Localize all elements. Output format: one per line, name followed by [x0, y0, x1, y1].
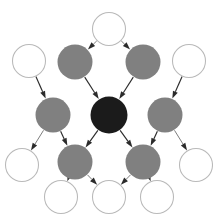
graph-node-gray[interactable] [58, 145, 93, 180]
graph-node-gray[interactable] [126, 45, 161, 80]
graph-diagram [0, 0, 213, 219]
graph-edge [36, 77, 46, 99]
graph-edge [172, 77, 182, 99]
arrowhead-icon [119, 91, 125, 99]
graph-edge [120, 130, 132, 147]
graph-node-gray[interactable] [126, 145, 161, 180]
arrowhead-icon [126, 140, 133, 148]
edge-line [85, 77, 95, 93]
arrowhead-icon [181, 143, 187, 151]
arrowhead-icon [86, 140, 93, 148]
edge-line [175, 77, 182, 92]
edge-line [88, 175, 92, 180]
graph-node-white[interactable] [6, 149, 39, 182]
edge-line [123, 77, 133, 93]
graph-node-white[interactable] [93, 13, 126, 46]
edge-line [120, 130, 128, 141]
edge-line [90, 130, 98, 141]
arrowhead-icon [62, 138, 68, 146]
graph-node-gray[interactable] [58, 45, 93, 80]
graph-node-white[interactable] [173, 45, 206, 78]
arrowhead-icon [31, 143, 37, 151]
graph-edge [88, 175, 98, 185]
graph-node-white[interactable] [180, 149, 213, 182]
edge-line [174, 130, 183, 144]
arrowhead-icon [40, 91, 45, 99]
edge-line [36, 77, 43, 92]
graph-node-white[interactable] [141, 181, 174, 214]
graph-edge [86, 130, 98, 147]
graph-edge [119, 77, 133, 99]
edge-line [154, 131, 158, 139]
graph-edge [88, 41, 97, 50]
graph-canvas [0, 0, 213, 219]
edge-line [35, 130, 44, 144]
graph-node-white[interactable] [45, 181, 78, 214]
graph-edge [151, 131, 158, 145]
arrowhead-icon [93, 91, 99, 99]
nodes-layer [6, 13, 213, 214]
graph-edge [85, 77, 99, 99]
edge-line [61, 131, 65, 139]
arrowhead-icon [172, 91, 177, 99]
graph-node-gray[interactable] [148, 98, 183, 133]
graph-edge [61, 131, 68, 145]
edge-line [126, 175, 130, 180]
graph-node-dark[interactable] [91, 97, 128, 134]
graph-node-white[interactable] [13, 45, 46, 78]
graph-node-white[interactable] [93, 181, 126, 214]
graph-node-gray[interactable] [36, 98, 71, 133]
arrowhead-icon [151, 138, 157, 146]
edge-line [121, 41, 125, 44]
graph-edge [121, 175, 131, 185]
graph-edge [31, 130, 44, 150]
graph-edge [174, 130, 187, 150]
edge-line [93, 41, 97, 44]
graph-edge [121, 41, 130, 50]
